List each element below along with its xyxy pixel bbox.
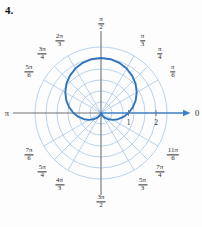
angle-label-denominator: 4	[155, 171, 164, 179]
angle-label-numerator: 4π	[55, 177, 64, 184]
angle-label-pi: π	[5, 109, 9, 118]
angle-label-four-pi-over-3: 4π3	[55, 177, 64, 192]
angle-label-two-pi-over-3: 2π3	[55, 33, 64, 48]
angle-label-denominator: 6	[25, 71, 34, 79]
angle-label-numerator: π	[98, 16, 104, 23]
angle-label-pi-over-3: π3	[140, 33, 146, 48]
angle-label-numerator: π	[170, 64, 176, 71]
angle-label-eleven-pi-over-6: 11π6	[167, 147, 179, 162]
radial-tick-label-1: 1	[127, 118, 131, 127]
angle-label-text: 0	[195, 109, 199, 118]
angle-label-five-pi-over-3: 5π3	[138, 177, 147, 192]
angle-label-numerator: π	[140, 33, 146, 40]
angle-label-five-pi-over-6: 5π6	[25, 64, 34, 79]
angle-label-numerator: 11π	[167, 147, 179, 154]
angle-label-numerator: 7π	[155, 164, 164, 171]
angle-label-five-pi-over-4: 5π4	[38, 164, 47, 179]
angle-label-numerator: 7π	[25, 147, 34, 154]
angle-label-denominator: 6	[170, 71, 176, 79]
angle-label-denominator: 6	[167, 154, 179, 162]
angle-label-three-pi-over-4: 3π4	[38, 47, 47, 62]
angle-label-numerator: 3π	[96, 194, 105, 201]
angle-label-numerator: 5π	[138, 177, 147, 184]
polar-axis-arrowhead	[183, 110, 191, 116]
angle-label-pi-over-6: π6	[170, 64, 176, 79]
angle-label-seven-pi-over-4: 7π4	[155, 164, 164, 179]
angle-label-pi-over-4: π4	[157, 47, 163, 62]
angle-label-denominator: 3	[55, 41, 64, 49]
angle-label-numerator: 2π	[55, 33, 64, 40]
angle-label-denominator: 4	[157, 54, 163, 62]
angle-label-numerator: 5π	[25, 64, 34, 71]
polar-figure: 4. π6π4π3π22π33π45π6π7π65π44π33π25π37π41…	[0, 0, 202, 227]
angle-label-zero: 0	[195, 109, 199, 118]
angle-label-text: π	[5, 109, 9, 118]
angle-label-denominator: 3	[140, 41, 146, 49]
angle-label-denominator: 4	[38, 54, 47, 62]
angle-label-denominator: 3	[138, 184, 147, 192]
angle-label-denominator: 4	[38, 171, 47, 179]
radial-tick-label-2: 2	[154, 118, 158, 127]
angle-label-denominator: 6	[25, 154, 34, 162]
angle-label-numerator: 3π	[38, 47, 47, 54]
angle-label-denominator: 2	[96, 202, 105, 210]
angle-label-pi-over-2: π2	[98, 16, 104, 31]
angle-label-seven-pi-over-6: 7π6	[25, 147, 34, 162]
angle-label-three-pi-over-2: 3π2	[96, 194, 105, 209]
angle-label-denominator: 3	[55, 184, 64, 192]
angle-label-denominator: 2	[98, 24, 104, 32]
angle-label-numerator: π	[157, 47, 163, 54]
angle-label-numerator: 5π	[38, 164, 47, 171]
